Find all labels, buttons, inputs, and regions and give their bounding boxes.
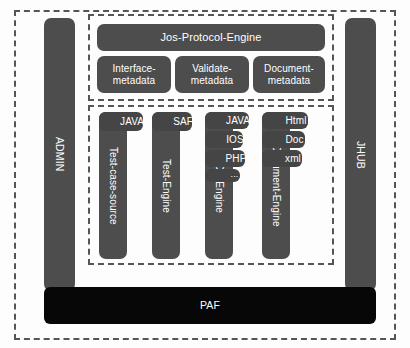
document-engine-tab-html-label: Html	[286, 115, 307, 127]
sdk-engine-tab-java-label: JAVA	[226, 115, 249, 127]
test-engine-tab-saf[interactable]: SAF	[152, 112, 192, 131]
interface-metadata-node[interactable]: Interface-metadata	[97, 56, 171, 93]
document-engine-tab-doc-label: Doc	[285, 134, 303, 146]
sdk-engine-tab-ios[interactable]: IOS	[205, 131, 243, 148]
jos-protocol-engine-node[interactable]: Jos-Protocol-Engine	[97, 24, 325, 51]
document-engine-tab-xml-label: xml	[285, 153, 301, 165]
sdk-engine-tab-more-label: ...	[231, 169, 239, 179]
sdk-engine-tab-php[interactable]: PHP	[205, 150, 245, 167]
architecture-diagram: ADMIN JHUB Jos-Protocol-Engine Interface…	[0, 0, 410, 348]
document-engine-tab-html[interactable]: Html	[262, 112, 308, 129]
test-case-source-label: Test-case-source	[107, 147, 119, 225]
paf-platform-label: PAF	[200, 299, 220, 311]
test-engine-column[interactable]: Test-Engine	[152, 112, 180, 259]
paf-platform-bar[interactable]: PAF	[44, 287, 376, 324]
interface-metadata-label: Interface-metadata	[99, 63, 169, 86]
test-case-source-tab-java-label: JAVA	[120, 116, 143, 128]
test-case-source-tab-java[interactable]: JAVA	[99, 112, 143, 131]
document-engine-tab-xml[interactable]: xml	[262, 150, 302, 167]
jhub-pillar-label: JHUB	[354, 141, 366, 169]
admin-pillar[interactable]: ADMIN	[44, 18, 75, 291]
test-engine-tab-saf-label: SAF	[173, 116, 192, 128]
sdk-engine-tab-java[interactable]: JAVA	[205, 112, 249, 129]
test-engine-label: Test-Engine	[160, 159, 172, 213]
sdk-engine-tab-php-label: PHP	[226, 153, 245, 165]
admin-pillar-label: ADMIN	[53, 137, 65, 171]
sdk-engine-tab-ios-label: IOS	[226, 134, 243, 146]
test-case-source-column[interactable]: Test-case-source	[99, 112, 127, 259]
jos-protocol-engine-label: Jos-Protocol-Engine	[161, 31, 262, 44]
document-metadata-node[interactable]: Document-metadata	[253, 56, 325, 93]
validate-metadata-label: Validate-metadata	[177, 63, 247, 86]
jhub-pillar[interactable]: JHUB	[345, 18, 376, 291]
document-metadata-label: Document-metadata	[255, 63, 323, 86]
document-engine-tab-doc[interactable]: Doc	[262, 131, 305, 148]
sdk-engine-tab-more[interactable]: ...	[205, 169, 240, 182]
validate-metadata-node[interactable]: Validate-metadata	[175, 56, 249, 93]
